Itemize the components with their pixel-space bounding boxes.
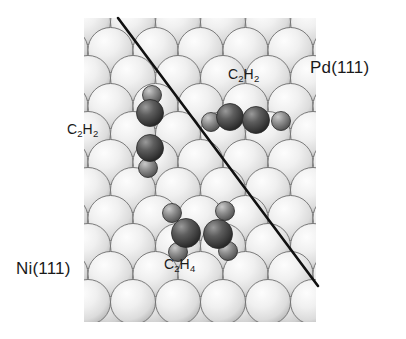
molecule-label-ethylene: C2H4 — [164, 256, 195, 274]
substrate-metal-atom — [313, 84, 358, 129]
carbon-atom — [137, 100, 164, 127]
surface-label-ni: Ni(111) — [16, 259, 71, 279]
metal-substrate-lattice — [29, 0, 358, 330]
formula-h: H — [244, 66, 254, 82]
substrate-metal-atom — [156, 280, 201, 325]
formula-c: C — [228, 66, 238, 82]
figure-canvas — [0, 0, 406, 339]
substrate-metal-atom — [43, 28, 88, 73]
substrate-sublayer-atom — [322, 302, 350, 330]
formula-sub-2: 4 — [190, 263, 195, 274]
formula-h: H — [180, 256, 190, 272]
formula-c: C — [67, 121, 77, 137]
carbon-atom — [243, 107, 270, 134]
carbon-atom — [137, 135, 164, 162]
carbon-atom — [172, 219, 201, 248]
carbon-atom — [217, 104, 244, 131]
surface-label-pd: Pd(111) — [310, 58, 369, 78]
substrate-sublayer-atom — [322, 22, 350, 50]
substrate-metal-atom — [313, 252, 358, 297]
substrate-metal-atom — [66, 280, 111, 325]
substrate-metal-atom — [246, 280, 291, 325]
substrate-metal-atom — [43, 196, 88, 241]
molecule-label-acetylene-right: C2H2 — [228, 66, 259, 84]
substrate-sublayer-atom — [29, 106, 57, 134]
substrate-metal-atom — [313, 196, 358, 241]
substrate-metal-atom — [291, 280, 336, 325]
formula-c: C — [164, 256, 174, 272]
molecule-label-acetylene-left: C2H2 — [67, 121, 98, 139]
surface-science-figure: Pd(111) Ni(111) C2H2 C2H2 C2H4 — [0, 0, 406, 339]
hydrogen-atom — [216, 202, 235, 221]
substrate-sublayer-atom — [322, 134, 350, 162]
substrate-sublayer-atom — [52, 22, 80, 50]
substrate-metal-atom — [313, 140, 358, 185]
substrate-sublayer-atom — [322, 246, 350, 274]
hydrogen-atom — [163, 204, 182, 223]
formula-h: H — [83, 121, 93, 137]
substrate-sublayer-atom — [322, 78, 350, 106]
substrate-metal-atom — [43, 140, 88, 185]
carbon-atom — [204, 220, 233, 249]
substrate-sublayer-atom — [52, 190, 80, 218]
substrate-sublayer-atom — [29, 50, 57, 78]
substrate-sublayer-atom — [52, 302, 80, 330]
formula-sub-2: 2 — [93, 128, 98, 139]
formula-sub-2: 2 — [254, 73, 259, 84]
substrate-sublayer-atom — [52, 78, 80, 106]
substrate-metal-atom — [111, 280, 156, 325]
substrate-metal-atom — [201, 280, 246, 325]
hydrogen-atom — [272, 112, 291, 131]
substrate-sublayer-atom — [322, 190, 350, 218]
substrate-sublayer-atom — [29, 162, 57, 190]
substrate-sublayer-atom — [29, 218, 57, 246]
